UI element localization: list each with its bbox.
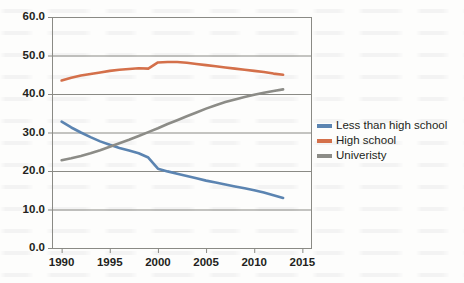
series-line-1 — [62, 62, 283, 80]
chart-legend: Less than high schoolHigh schoolUniveris… — [317, 118, 447, 163]
legend-item[interactable]: Less than high school — [317, 118, 447, 133]
y-axis-tick-label: 40.0 — [2, 87, 45, 99]
y-axis-tick-label: 20.0 — [2, 164, 45, 176]
legend-item[interactable]: Univeristy — [317, 148, 447, 163]
line-chart-figure: 0.010.020.030.040.050.060.0 199019952000… — [0, 0, 464, 283]
series-line-2 — [62, 89, 283, 160]
legend-item-label: Univeristy — [336, 149, 386, 162]
x-axis-tick-label: 1990 — [39, 256, 85, 268]
legend-item-label: Less than high school — [336, 119, 447, 132]
legend-item[interactable]: High school — [317, 133, 447, 148]
y-axis-tick-label: 60.0 — [2, 10, 45, 22]
y-axis-tick-label: 30.0 — [2, 126, 45, 138]
series-group — [62, 62, 283, 198]
legend-swatch-icon — [317, 124, 332, 128]
legend-item-label: High school — [336, 134, 396, 147]
y-axis-tick-label: 0.0 — [2, 241, 45, 253]
legend-swatch-icon — [317, 139, 332, 143]
x-axis-tick-label: 2005 — [183, 256, 229, 268]
x-axis-tick-label: 2015 — [279, 256, 325, 268]
x-axis-tick-label: 2010 — [231, 256, 277, 268]
y-axis-tick-label: 10.0 — [2, 203, 45, 215]
gridlines-group — [52, 18, 312, 249]
x-axis-tick-label: 2000 — [135, 256, 181, 268]
y-axis-tick-label: 50.0 — [2, 49, 45, 61]
legend-swatch-icon — [317, 154, 332, 158]
x-axis-tick-label: 1995 — [87, 256, 133, 268]
